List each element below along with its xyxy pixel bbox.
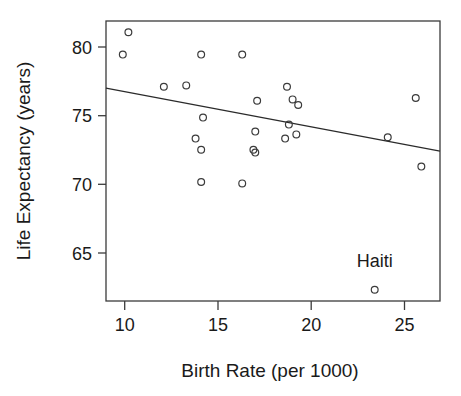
- x-tick-label-20: 20: [301, 315, 321, 335]
- y-tick-label-75: 75: [72, 106, 92, 126]
- y-tick-label-80: 80: [72, 38, 92, 58]
- y-tick-label-70: 70: [72, 175, 92, 195]
- y-axis-title: Life Expectancy (years): [13, 62, 34, 261]
- chart-background: [0, 0, 461, 396]
- x-axis-title: Birth Rate (per 1000): [181, 360, 358, 381]
- x-tick-label-25: 25: [394, 315, 414, 335]
- x-tick-label-15: 15: [208, 315, 228, 335]
- scatter-plot-figure: 80 75 70 65 10 15 20 25 Birth Rate (per …: [0, 0, 461, 396]
- chart-canvas: 80 75 70 65 10 15 20 25 Birth Rate (per …: [0, 0, 461, 396]
- x-tick-label-10: 10: [115, 315, 135, 335]
- annotations-group: Haiti: [357, 251, 393, 271]
- y-tick-label-65: 65: [72, 244, 92, 264]
- point-annotation-label: Haiti: [357, 251, 393, 271]
